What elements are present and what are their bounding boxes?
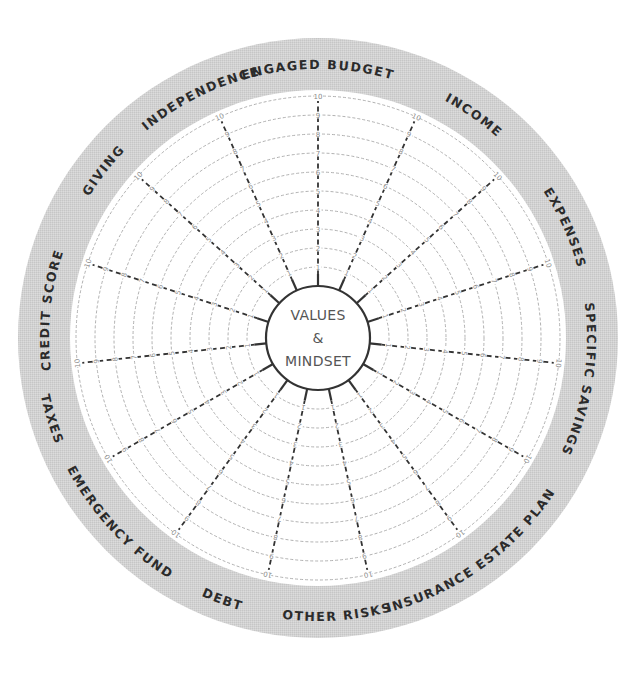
tick-label: 6 — [316, 169, 321, 177]
wellness-wheel-diagram: 1234567891012345678910123456789101234567… — [0, 0, 635, 673]
tick-label: 10 — [554, 358, 563, 368]
tick-label: 3 — [422, 347, 430, 352]
tick-label: 7 — [497, 355, 505, 360]
tick-label: 3 — [316, 226, 320, 234]
center-line-3: MINDSET — [285, 353, 351, 369]
tick-label: 3 — [206, 347, 214, 352]
tick-label: 9 — [93, 359, 101, 364]
tick-label: 7 — [316, 150, 320, 158]
tick-label: 2 — [225, 345, 233, 350]
tick-label: 10 — [314, 93, 323, 101]
center-hub: VALUES & MINDSET — [266, 286, 370, 390]
tick-label: 8 — [516, 357, 524, 362]
tick-label: 8 — [316, 131, 320, 139]
center-line-1: VALUES — [290, 307, 345, 323]
tick-label: 5 — [168, 351, 176, 356]
tick-label: 5 — [316, 188, 320, 196]
tick-label: 7 — [130, 355, 138, 360]
tick-label: 1 — [316, 264, 320, 272]
tick-label: 1 — [244, 343, 252, 348]
tick-label: 2 — [316, 245, 320, 253]
tick-label: 4 — [316, 207, 321, 215]
tick-label: 8 — [111, 357, 119, 362]
tick-label: 10 — [73, 358, 82, 368]
tick-label: 1 — [384, 343, 392, 348]
tick-label: 9 — [535, 359, 543, 364]
tick-label: 5 — [459, 351, 467, 356]
tick-label: 9 — [316, 112, 320, 120]
center-line-2: & — [312, 330, 323, 346]
tick-label: 2 — [403, 345, 411, 350]
